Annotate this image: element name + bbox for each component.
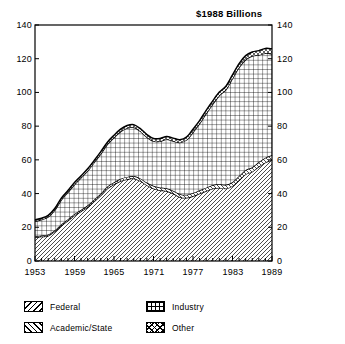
academic-state-swatch (24, 322, 43, 333)
legend-row-2: Academic/State Other (24, 317, 324, 338)
industry-swatch (146, 301, 165, 312)
legend-label-academic-state: Academic/State (50, 323, 112, 333)
legend-entry-federal[interactable]: Federal (24, 301, 146, 312)
legend-label-federal: Federal (50, 302, 80, 312)
federal-swatch (24, 301, 43, 312)
legend-entry-other[interactable]: Other (146, 322, 194, 333)
legend-entry-academic-state[interactable]: Academic/State (24, 322, 146, 333)
chart-figure: $1988 Billions 140 120 100 80 60 40 20 0… (0, 0, 345, 344)
legend-entry-industry[interactable]: Industry (146, 301, 204, 312)
legend-label-industry: Industry (172, 302, 204, 312)
legend-row-1: Federal Industry (24, 296, 324, 317)
legend-label-other: Other (172, 323, 194, 333)
other-swatch (146, 322, 165, 333)
stacked-area-plot (0, 0, 345, 344)
chart-legend: Federal Industry Academic/State Other (24, 296, 324, 340)
